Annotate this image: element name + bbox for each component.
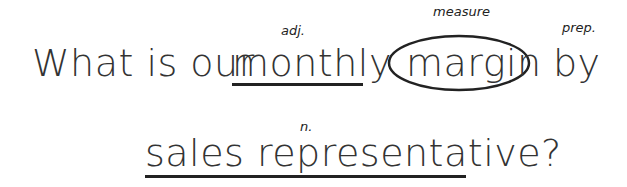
preposition-tag: prep. (562, 21, 596, 34)
noun-underline (145, 175, 466, 178)
measure-word: margin (406, 44, 542, 82)
noun-phrase: sales representative? (145, 134, 562, 172)
preposition-word: by (553, 44, 601, 82)
